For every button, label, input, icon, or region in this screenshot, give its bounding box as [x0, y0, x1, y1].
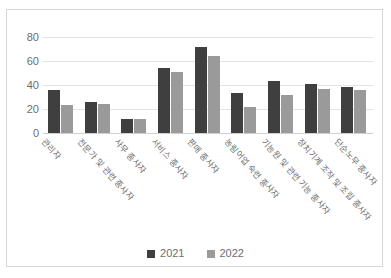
bar-2022 [318, 89, 330, 133]
x-tick-label: 관리자 [39, 137, 62, 162]
bar-group [263, 37, 300, 133]
chart-frame: 020406080 관리자전문가 및 관련 종사자사무 종사자서비스 종사자판매… [6, 9, 383, 267]
bar-2022 [98, 104, 110, 133]
bar-group [336, 37, 373, 133]
bar-group [226, 37, 263, 133]
y-tick-label-80: 80 [11, 32, 39, 43]
y-axis: 020406080 [7, 37, 39, 133]
bar-2021 [195, 47, 207, 133]
y-tick-label-60: 60 [11, 56, 39, 67]
bar-group [116, 37, 153, 133]
bar-group [300, 37, 337, 133]
bars-layer [43, 37, 373, 133]
bar-2021 [341, 87, 353, 133]
legend-swatch-icon [147, 250, 155, 258]
legend-item-2021[interactable]: 2021 [147, 248, 184, 259]
x-tick-label: 서비스 종사자 [149, 137, 190, 181]
bar-2022 [208, 56, 220, 133]
legend-label: 2022 [220, 248, 244, 259]
legend-item-2022[interactable]: 2022 [207, 248, 244, 259]
x-tick-label: 사무 종사자 [113, 137, 149, 175]
bar-2022 [281, 95, 293, 133]
x-axis-labels: 관리자전문가 및 관련 종사자사무 종사자서비스 종사자판매 종사자농림어업 숙… [43, 134, 373, 234]
bar-2022 [244, 107, 256, 133]
bar-2021 [231, 93, 243, 133]
y-tick-label-0: 0 [11, 128, 39, 139]
x-tick-label: 장치기계 조작 및 조립 종사자 [296, 137, 374, 222]
legend-swatch-icon [207, 250, 215, 258]
bar-2021 [268, 81, 280, 133]
bar-2021 [85, 102, 97, 133]
y-tick-label-40: 40 [11, 80, 39, 91]
bar-2022 [61, 105, 73, 133]
bar-group [190, 37, 227, 133]
x-tick-label: 판매 종사자 [186, 137, 222, 175]
bar-group [80, 37, 117, 133]
bar-group [43, 37, 80, 133]
x-tick-label: 기능원 및 관련 기능 종사자 [259, 137, 332, 216]
bar-group [153, 37, 190, 133]
bar-2021 [305, 84, 317, 133]
bar-2022 [171, 72, 183, 133]
bar-2022 [354, 90, 366, 133]
bar-2021 [158, 68, 170, 133]
chart-legend: 20212022 [7, 248, 384, 259]
bar-2021 [121, 119, 133, 133]
legend-label: 2021 [160, 248, 184, 259]
bar-2021 [48, 90, 60, 133]
bar-2022 [134, 119, 146, 133]
y-tick-label-20: 20 [11, 104, 39, 115]
